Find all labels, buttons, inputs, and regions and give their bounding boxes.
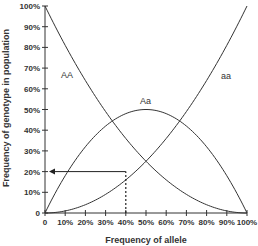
y-tick-label: 90% [24, 23, 40, 32]
x-tick-label: 100% [237, 218, 257, 227]
label-Aa: Aa [140, 96, 151, 106]
y-tick-label: 40% [24, 126, 40, 135]
y-tick-label: 70% [24, 64, 40, 73]
x-tick-label: 20% [77, 218, 93, 227]
y-tick-label: 30% [24, 147, 40, 156]
y-ticks: 010%20%30%40%50%60%70%80%90%100% [20, 2, 48, 218]
y-tick-label: 80% [24, 43, 40, 52]
y-tick-label: 100% [20, 2, 40, 11]
x-tick-label: 90% [219, 218, 235, 227]
y-tick-label: 20% [24, 168, 40, 177]
x-tick-label: 30% [98, 218, 114, 227]
y-tick-label: 10% [24, 188, 40, 197]
label-AA: AA [61, 70, 73, 80]
x-tick-label: 0 [43, 218, 48, 227]
x-tick-label: 40% [118, 218, 134, 227]
genotype-frequency-chart: 010%20%30%40%50%60%70%80%90%100% 010%20%… [0, 0, 258, 246]
curves [45, 6, 247, 213]
annotations [49, 169, 126, 213]
y-tick-label: 0 [36, 209, 41, 218]
y-tick-label: 60% [24, 85, 40, 94]
x-tick-label: 80% [199, 218, 215, 227]
x-tick-label: 10% [57, 218, 73, 227]
x-tick-label: 70% [178, 218, 194, 227]
label-aa: aa [221, 71, 231, 81]
y-tick-label: 50% [24, 106, 40, 115]
x-tick-label: 50% [138, 218, 154, 227]
arrow-left-icon [49, 169, 55, 175]
x-tick-label: 60% [158, 218, 174, 227]
x-axis-title: Frequency of allele [105, 235, 187, 245]
y-axis-title: Frequency of genotype in population [1, 29, 11, 187]
